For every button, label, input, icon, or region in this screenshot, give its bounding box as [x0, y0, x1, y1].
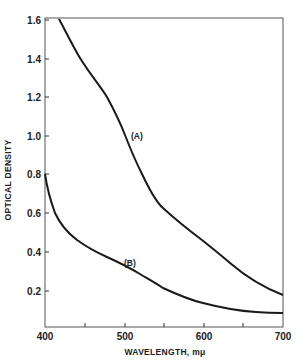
curve-a-label: (A)	[131, 131, 143, 141]
x-tick-label: 400	[37, 331, 54, 342]
curve-b-label: (B)	[124, 258, 136, 268]
y-tick-label: 0.4	[27, 247, 41, 258]
x-tick-label: 600	[196, 331, 213, 342]
y-tick-labels: 1.6 1.4 1.2 1.0 0.8 0.6 0.4 0.2	[27, 15, 41, 297]
y-tick-label: 0.8	[27, 169, 41, 180]
y-tick-label: 1.2	[27, 92, 41, 103]
y-tick-label: 0.6	[27, 208, 41, 219]
y-tick-label: 1.4	[27, 54, 41, 65]
x-axis-title: WAVELENGTH, mμ	[124, 347, 205, 357]
y-axis	[45, 20, 49, 291]
y-tick-label: 1.0	[27, 131, 41, 142]
y-axis-title: OPTICAL DENSITY	[3, 140, 13, 221]
y-tick-label: 0.2	[27, 286, 41, 297]
curve-a	[59, 19, 283, 295]
optical-density-chart: 1.6 1.4 1.2 1.0 0.8 0.6 0.4 0.2 400 500 …	[0, 0, 306, 364]
curve-b	[45, 174, 283, 313]
plot-frame	[45, 18, 283, 327]
y-tick-label: 1.6	[27, 15, 41, 26]
x-axis	[85, 323, 243, 327]
x-tick-label: 700	[275, 331, 292, 342]
x-tick-label: 500	[117, 331, 134, 342]
x-tick-labels: 400 500 600 700	[37, 331, 292, 342]
